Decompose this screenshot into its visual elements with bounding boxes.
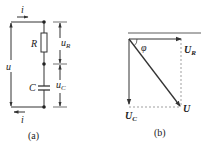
caption-b: (b) bbox=[154, 127, 166, 139]
resistor-voltage-label: uR bbox=[61, 37, 71, 50]
capacitor-voltage-label: uC bbox=[56, 79, 66, 92]
caption-a: (a) bbox=[28, 130, 39, 142]
node-top bbox=[42, 20, 46, 24]
resistor-label: R bbox=[30, 38, 37, 49]
phasor-UR-label: UR bbox=[184, 44, 196, 57]
phasor-U-label: U bbox=[183, 103, 191, 114]
resistor bbox=[41, 33, 47, 52]
node-bottom bbox=[42, 105, 46, 109]
current-label-top: i bbox=[21, 4, 24, 15]
node-middle bbox=[42, 62, 46, 66]
angle-label: φ bbox=[141, 42, 147, 53]
phasor-UC-label: UC bbox=[125, 110, 137, 123]
rc-circuit-figure: i i u R C uR uC (a) φ UR UC U (b) bbox=[0, 0, 201, 147]
current-label-bottom: i bbox=[21, 114, 24, 125]
phasor-U bbox=[129, 39, 180, 106]
circuit-diagram bbox=[11, 17, 67, 112]
capacitor-label: C bbox=[29, 82, 36, 93]
angle-arc bbox=[134, 39, 137, 46]
source-voltage-label: u bbox=[6, 61, 11, 72]
